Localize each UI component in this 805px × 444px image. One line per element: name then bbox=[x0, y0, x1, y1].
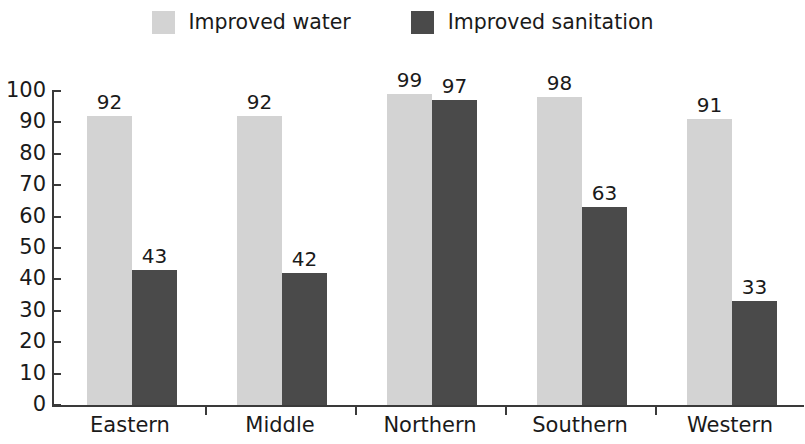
y-axis-tick-label: 30 bbox=[0, 300, 46, 321]
x-axis-tick bbox=[655, 405, 657, 415]
x-axis-category-label: Southern bbox=[505, 415, 655, 436]
bar-value-label: 98 bbox=[525, 73, 594, 93]
y-axis-tick bbox=[52, 278, 61, 280]
bar-value-label: 33 bbox=[720, 277, 789, 297]
y-axis-tick-label: 70 bbox=[0, 174, 46, 195]
y-axis-tick bbox=[52, 341, 61, 343]
bar-middle-improved-sanitation bbox=[282, 273, 327, 405]
y-axis-tick-label: 40 bbox=[0, 268, 46, 289]
y-axis-tick bbox=[52, 121, 61, 123]
bar-value-label: 42 bbox=[270, 249, 339, 269]
bar-value-label: 43 bbox=[120, 246, 189, 266]
y-axis-tick-label: 10 bbox=[0, 363, 46, 384]
bar-western-improved-sanitation bbox=[732, 301, 777, 405]
x-axis-tick bbox=[205, 405, 207, 415]
y-axis-tick bbox=[52, 90, 61, 92]
y-axis-tick-label: 90 bbox=[0, 111, 46, 132]
y-axis-tick-label: 60 bbox=[0, 206, 46, 227]
x-axis-line bbox=[52, 405, 804, 407]
y-axis-tick-label: 50 bbox=[0, 237, 46, 258]
bar-southern-improved-water bbox=[537, 97, 582, 405]
bar-value-label: 63 bbox=[570, 183, 639, 203]
y-axis-tick-label: 0 bbox=[0, 394, 46, 415]
plot-area: 1009080706050403020100 EasternMiddleNort… bbox=[0, 0, 805, 444]
x-axis-tick bbox=[355, 405, 357, 415]
x-axis-category-label: Western bbox=[655, 415, 805, 436]
bar-value-label: 97 bbox=[420, 76, 489, 96]
bar-western-improved-water bbox=[687, 119, 732, 405]
y-axis-tick-label: 20 bbox=[0, 331, 46, 352]
x-axis-tick bbox=[505, 405, 507, 415]
bar-northern-improved-sanitation bbox=[432, 100, 477, 405]
y-axis-tick bbox=[52, 373, 61, 375]
y-axis-tick bbox=[52, 184, 61, 186]
y-axis-tick-label: 100 bbox=[0, 80, 46, 101]
y-axis-tick bbox=[52, 153, 61, 155]
bar-value-label: 91 bbox=[675, 95, 744, 115]
y-axis-tick bbox=[52, 216, 61, 218]
x-axis-category-label: Northern bbox=[355, 415, 505, 436]
x-axis-category-label: Middle bbox=[205, 415, 355, 436]
bar-northern-improved-water bbox=[387, 94, 432, 405]
bar-southern-improved-sanitation bbox=[582, 207, 627, 405]
x-axis-category-label: Eastern bbox=[55, 415, 205, 436]
bar-value-label: 92 bbox=[75, 92, 144, 112]
y-axis-tick-label: 80 bbox=[0, 143, 46, 164]
y-axis-tick bbox=[52, 404, 61, 406]
bar-chart: Improved water Improved sanitation 10090… bbox=[0, 0, 805, 444]
bar-value-label: 92 bbox=[225, 92, 294, 112]
y-axis-tick bbox=[52, 247, 61, 249]
bar-eastern-improved-sanitation bbox=[132, 270, 177, 405]
y-axis-tick bbox=[52, 310, 61, 312]
